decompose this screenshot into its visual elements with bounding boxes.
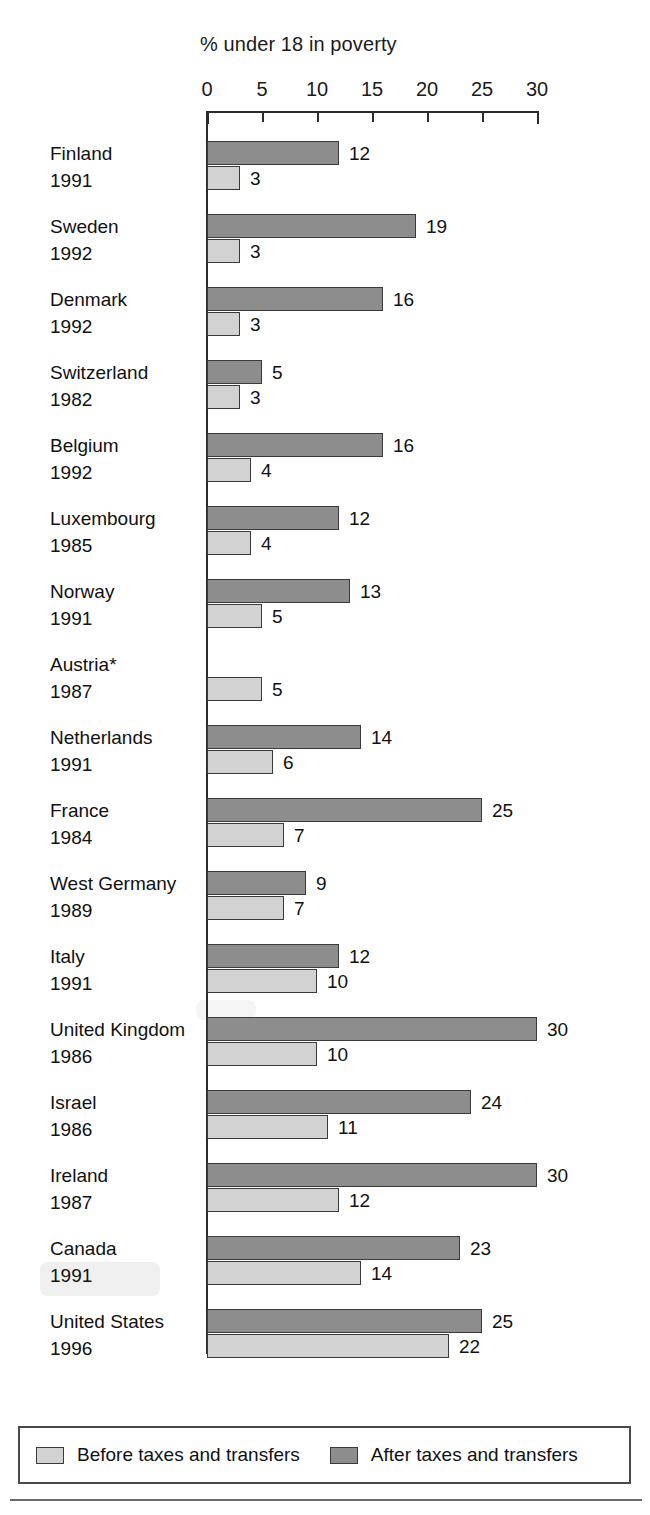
chart-row: Canada19912314	[0, 1229, 650, 1302]
row-label-france: France1984	[50, 797, 200, 851]
bar-after-taxes	[207, 1017, 537, 1041]
legend-items: Before taxes and transfersAfter taxes an…	[20, 1428, 629, 1482]
chart-row: Netherlands1991146	[0, 718, 650, 791]
row-year: 1989	[50, 897, 200, 924]
row-year: 1996	[50, 1335, 200, 1362]
row-label-israel: Israel1986	[50, 1089, 200, 1143]
row-year: 1986	[50, 1116, 200, 1143]
row-year: 1982	[50, 386, 200, 413]
bar-value-after-taxes: 14	[371, 727, 392, 749]
bar-before-taxes	[207, 1042, 317, 1066]
bar-value-after-taxes: 12	[349, 508, 370, 530]
legend-label: Before taxes and transfers	[77, 1444, 300, 1466]
bar-after-taxes	[207, 798, 482, 822]
plot-area: 051015202530 Finland1991123Sweden1992193…	[0, 0, 650, 1380]
bar-after-taxes	[207, 1163, 537, 1187]
bar-before-taxes	[207, 385, 240, 409]
row-country-name: Austria*	[50, 651, 200, 678]
bar-rows: Finland1991123Sweden1992193Denmark199216…	[0, 0, 650, 1380]
bar-before-taxes	[207, 969, 317, 993]
chart-row: United Kingdom19863010	[0, 1010, 650, 1083]
bar-before-taxes	[207, 823, 284, 847]
bar-after-taxes	[207, 579, 350, 603]
row-year: 1984	[50, 824, 200, 851]
legend-item: Before taxes and transfers	[36, 1444, 300, 1466]
bar-after-taxes	[207, 1236, 460, 1260]
row-country-name: Finland	[50, 140, 200, 167]
bar-after-taxes	[207, 1309, 482, 1333]
row-label-switzerland: Switzerland1982	[50, 359, 200, 413]
row-country-name: United States	[50, 1308, 200, 1335]
row-country-name: Denmark	[50, 286, 200, 313]
row-year: 1985	[50, 532, 200, 559]
row-country-name: Switzerland	[50, 359, 200, 386]
row-country-name: France	[50, 797, 200, 824]
bar-value-before-taxes: 7	[294, 898, 305, 920]
bar-value-after-taxes: 25	[492, 1311, 513, 1333]
row-label-sweden: Sweden1992	[50, 213, 200, 267]
bar-value-after-taxes: 5	[272, 362, 283, 384]
bar-after-taxes	[207, 360, 262, 384]
chart-row: Sweden1992193	[0, 207, 650, 280]
row-year: 1991	[50, 1262, 200, 1289]
row-year: 1991	[50, 751, 200, 778]
row-country-name: Norway	[50, 578, 200, 605]
bar-after-taxes	[207, 871, 306, 895]
bar-before-taxes	[207, 896, 284, 920]
row-year: 1992	[50, 313, 200, 340]
row-country-name: United Kingdom	[50, 1016, 200, 1043]
bar-before-taxes	[207, 750, 273, 774]
bar-value-before-taxes: 10	[327, 971, 348, 993]
row-label-united-kingdom: United Kingdom1986	[50, 1016, 200, 1070]
chart-page: % under 18 in poverty 051015202530 Finla…	[0, 0, 650, 1515]
bar-value-before-taxes: 11	[338, 1117, 358, 1139]
bar-value-before-taxes: 3	[250, 168, 261, 190]
bar-value-after-taxes: 24	[481, 1092, 502, 1114]
chart-row: France1984257	[0, 791, 650, 864]
bar-value-before-taxes: 6	[283, 752, 294, 774]
row-label-united-states: United States1996	[50, 1308, 200, 1362]
bar-value-before-taxes: 12	[349, 1190, 370, 1212]
chart-row: Israel19862411	[0, 1083, 650, 1156]
row-label-finland: Finland1991	[50, 140, 200, 194]
bar-value-after-taxes: 13	[360, 581, 381, 603]
row-label-west-germany: West Germany1989	[50, 870, 200, 924]
row-year: 1987	[50, 1189, 200, 1216]
row-label-canada: Canada1991	[50, 1235, 200, 1289]
row-year: 1987	[50, 678, 200, 705]
bar-value-before-taxes: 4	[261, 460, 272, 482]
bar-value-after-taxes: 30	[547, 1165, 568, 1187]
chart-row: Luxembourg1985124	[0, 499, 650, 572]
row-year: 1991	[50, 167, 200, 194]
bar-before-taxes	[207, 312, 240, 336]
bar-value-before-taxes: 3	[250, 241, 261, 263]
bar-value-after-taxes: 23	[470, 1238, 491, 1260]
bar-before-taxes	[207, 1115, 328, 1139]
row-label-ireland: Ireland1987	[50, 1162, 200, 1216]
legend-swatch-before	[36, 1447, 64, 1464]
row-country-name: Luxembourg	[50, 505, 200, 532]
bar-after-taxes	[207, 141, 339, 165]
chart-row: Ireland19873012	[0, 1156, 650, 1229]
bar-after-taxes	[207, 944, 339, 968]
bar-value-after-taxes: 12	[349, 946, 370, 968]
bar-after-taxes	[207, 214, 416, 238]
row-label-belgium: Belgium1992	[50, 432, 200, 486]
chart-row: Finland1991123	[0, 134, 650, 207]
bar-value-before-taxes: 3	[250, 314, 261, 336]
bar-before-taxes	[207, 604, 262, 628]
row-country-name: Sweden	[50, 213, 200, 240]
chart-row: Italy19911210	[0, 937, 650, 1010]
bar-after-taxes	[207, 433, 383, 457]
legend-item: After taxes and transfers	[330, 1444, 578, 1466]
bar-after-taxes	[207, 287, 383, 311]
chart-row: United States19962522	[0, 1302, 650, 1375]
chart-row: Switzerland198253	[0, 353, 650, 426]
row-country-name: Netherlands	[50, 724, 200, 751]
chart-legend: Before taxes and transfersAfter taxes an…	[18, 1426, 631, 1484]
bar-value-after-taxes: 12	[349, 143, 370, 165]
bar-value-after-taxes: 16	[393, 289, 414, 311]
bar-value-before-taxes: 3	[250, 387, 261, 409]
bar-value-before-taxes: 22	[459, 1336, 480, 1358]
row-label-italy: Italy1991	[50, 943, 200, 997]
